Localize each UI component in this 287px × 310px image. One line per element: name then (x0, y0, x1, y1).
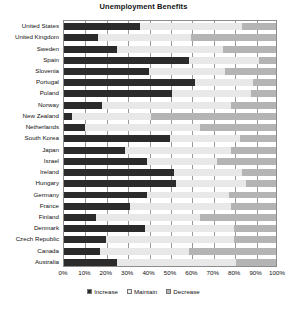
y-axis-label: Israel (44, 157, 59, 164)
x-axis-tick-label: 30% (121, 269, 133, 277)
bar-segment-decrease (189, 248, 276, 255)
bar-segment-maintain (117, 259, 236, 266)
x-axis-tick-label: 80% (228, 269, 240, 277)
y-axis-label: Poland (40, 89, 59, 96)
bar-row (64, 57, 276, 64)
x-axis-tick-label: 70% (207, 269, 219, 277)
y-axis-label: Sweden (37, 45, 59, 52)
bar-segment-decrease (251, 90, 276, 97)
y-axis-label: Slovenia (35, 67, 59, 74)
bar-row (64, 147, 276, 154)
bar-segment-decrease (240, 135, 276, 142)
bar-segment-increase (64, 23, 140, 30)
legend-label: Increase (94, 288, 118, 295)
bar-row (64, 135, 276, 142)
y-axis-label: Finland (39, 213, 59, 220)
bar-row (64, 169, 276, 176)
bar-segment-decrease (231, 147, 276, 154)
bar-row (64, 90, 276, 97)
x-axis-tick-label: 60% (185, 269, 197, 277)
bar-segment-maintain (176, 180, 246, 187)
bar-segment-increase (64, 90, 172, 97)
bar-segment-maintain (100, 248, 189, 255)
y-axis-label: Norway (38, 101, 59, 108)
bar-row (64, 192, 276, 199)
bar-segment-increase (64, 113, 72, 120)
bar-segment-maintain (102, 102, 231, 109)
y-axis-label: Denmark (34, 224, 59, 231)
bar-row (64, 79, 276, 86)
bar-segment-maintain (147, 192, 230, 199)
legend-label: Decrease (173, 288, 199, 295)
bar-segment-increase (64, 46, 117, 53)
bar-row (64, 34, 276, 41)
y-axis-label: Portugal (36, 78, 59, 85)
x-axis-tick-label: 20% (100, 269, 112, 277)
x-axis-tick-label: 90% (249, 269, 261, 277)
bar-segment-increase (64, 169, 174, 176)
bar-row (64, 46, 276, 53)
bar-segment-increase (64, 34, 98, 41)
bar-segment-increase (64, 68, 149, 75)
bar-row (64, 68, 276, 75)
bar-segment-increase (64, 147, 125, 154)
y-axis-label: Japan (42, 146, 59, 153)
legend-item-increase[interactable]: Increase (87, 288, 118, 295)
bar-segment-maintain (98, 34, 191, 41)
bar-segment-decrease (242, 169, 276, 176)
bar-row (64, 102, 276, 109)
bar-segment-decrease (200, 214, 276, 221)
bar-segment-increase (64, 203, 130, 210)
y-axis-label: Ireland (40, 168, 59, 175)
bar-segment-maintain (174, 169, 242, 176)
y-axis-label: Canada (37, 247, 59, 254)
bar-segment-increase (64, 79, 195, 86)
y-axis-label: Germany (34, 191, 59, 198)
bar-segment-maintain (125, 147, 231, 154)
bar-segment-decrease (246, 180, 276, 187)
legend-item-decrease[interactable]: Decrease (166, 288, 199, 295)
y-axis-label: South Korea (25, 134, 59, 141)
bar-row (64, 259, 276, 266)
bar-segment-decrease (151, 113, 276, 120)
y-axis-label: Australia (35, 258, 59, 265)
x-axis-tick-label: 50% (164, 269, 176, 277)
bar-segment-decrease (259, 57, 276, 64)
bar-segment-increase (64, 259, 117, 266)
legend-swatch-icon (127, 289, 132, 294)
x-axis-tick-label: 100% (269, 269, 285, 277)
chart-legend: IncreaseMaintainDecrease (0, 288, 287, 295)
bar-segment-increase (64, 102, 102, 109)
bar-segment-decrease (200, 124, 276, 131)
y-axis-label: United States (22, 22, 59, 29)
bar-segment-decrease (191, 34, 276, 41)
y-axis-label: New Zealand (23, 112, 59, 119)
bar-segment-maintain (96, 214, 200, 221)
bar-segment-decrease (225, 68, 276, 75)
bar-segment-maintain (145, 225, 234, 232)
bar-segment-maintain (85, 124, 199, 131)
legend-swatch-icon (166, 289, 171, 294)
bar-segment-increase (64, 214, 96, 221)
bar-segment-decrease (242, 23, 276, 30)
legend-item-maintain[interactable]: Maintain (127, 288, 157, 295)
bar-segment-increase (64, 57, 189, 64)
bar-segment-maintain (147, 158, 217, 165)
chart-title: Unemployment Benefits (0, 2, 287, 11)
bar-segment-maintain (149, 68, 225, 75)
bar-row (64, 124, 276, 131)
x-axis-tick-label: 0% (59, 269, 68, 277)
bar-segment-increase (64, 180, 176, 187)
bar-segment-maintain (140, 23, 242, 30)
bar-segment-decrease (236, 259, 276, 266)
bar-row (64, 113, 276, 120)
bar-segment-increase (64, 158, 147, 165)
bar-segment-decrease (231, 203, 276, 210)
bar-segment-decrease (223, 46, 276, 53)
bar-segment-decrease (234, 236, 276, 243)
bar-segment-maintain (130, 203, 232, 210)
y-axis-category-labels: United StatesUnited KingdomSwedenSpainSl… (0, 20, 61, 267)
bar-segment-maintain (117, 46, 223, 53)
bar-rows (64, 21, 276, 266)
plot-area (63, 20, 277, 267)
